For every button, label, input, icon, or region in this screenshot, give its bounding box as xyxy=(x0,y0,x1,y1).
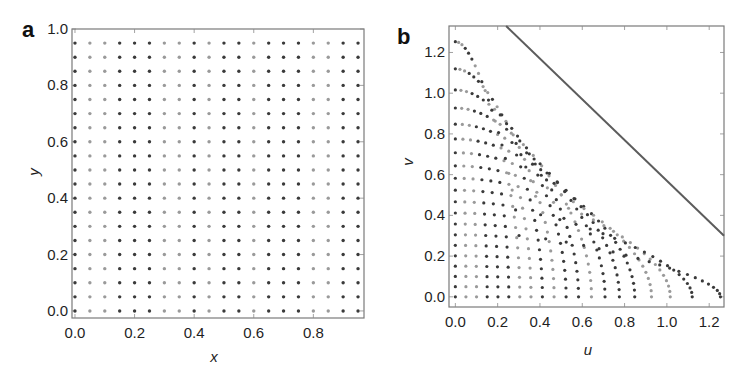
y-axis-title-b: v xyxy=(399,157,416,166)
x-tick-label-b: 1.2 xyxy=(699,313,720,330)
y-tick-label-a: 0.6 xyxy=(47,133,68,150)
y-tick-label-a: 0.4 xyxy=(47,189,68,206)
y-tick-label-b: 0.0 xyxy=(424,288,445,305)
x-tick-label-b: 0.4 xyxy=(530,313,551,330)
plot-frame-b xyxy=(449,26,724,307)
x-axis-title-a: x xyxy=(209,348,218,365)
x-tick-label-b: 0.2 xyxy=(487,313,508,330)
boundary-line xyxy=(506,26,724,236)
x-tick-label-a: 0.4 xyxy=(184,324,205,341)
panel-b-transformed-scatter: b 0.00.20.40.60.81.01.20.00.20.40.60.81.… xyxy=(397,24,724,358)
y-axis-title-a: y xyxy=(25,167,42,177)
x-axis-title-b: u xyxy=(584,341,593,358)
axis-ticks-b: 0.00.20.40.60.81.01.20.00.20.40.60.81.01… xyxy=(424,26,724,330)
x-tick-label-a: 0.0 xyxy=(65,324,86,341)
panel-label-a: a xyxy=(22,17,35,42)
x-tick-label-a: 0.8 xyxy=(303,324,324,341)
data-points-b xyxy=(454,40,722,298)
x-tick-label-a: 0.2 xyxy=(124,324,145,341)
x-tick-label-b: 0.8 xyxy=(614,313,635,330)
y-tick-label-a: 0.0 xyxy=(47,302,68,319)
x-tick-label-b: 1.0 xyxy=(656,313,677,330)
figure: a 0.00.20.40.60.80.00.20.40.60.81.0 x y … xyxy=(0,0,750,383)
axis-ticks-a: 0.00.20.40.60.80.00.20.40.60.81.0 xyxy=(47,20,364,341)
y-tick-label-a: 0.8 xyxy=(47,76,68,93)
plot-frame-a xyxy=(72,29,364,318)
x-tick-label-a: 0.6 xyxy=(243,324,264,341)
y-tick-label-b: 0.2 xyxy=(424,247,445,264)
y-tick-label-b: 0.8 xyxy=(424,125,445,142)
y-tick-label-b: 0.4 xyxy=(424,206,445,223)
x-tick-label-b: 0.6 xyxy=(572,313,593,330)
data-points-a xyxy=(73,41,359,312)
panel-label-b: b xyxy=(397,24,410,49)
x-tick-label-b: 0.0 xyxy=(445,313,466,330)
y-tick-label-a: 1.0 xyxy=(47,20,68,37)
y-tick-label-b: 0.6 xyxy=(424,166,445,183)
y-tick-label-a: 0.2 xyxy=(47,246,68,263)
y-tick-label-b: 1.0 xyxy=(424,84,445,101)
panel-a-scatter-grid: a 0.00.20.40.60.80.00.20.40.60.81.0 x y xyxy=(22,17,364,365)
y-tick-label-b: 1.2 xyxy=(424,43,445,60)
